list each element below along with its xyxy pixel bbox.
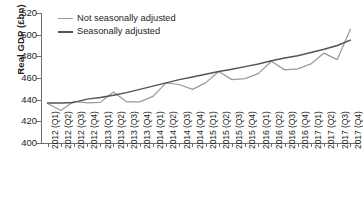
legend-line-icon: [58, 18, 73, 19]
legend-item-seasonally-adjusted: Seasonally adjusted: [58, 26, 176, 37]
series-layer: [0, 0, 363, 216]
legend-label: Not seasonally adjusted: [77, 13, 176, 24]
legend-label: Seasonally adjusted: [77, 26, 160, 37]
series-line-seasonally-adjusted: [48, 40, 351, 103]
gdp-line-chart: Real GDP (£bn) 400420440460480500520 201…: [0, 0, 363, 216]
legend-item-not-seasonally-adjusted: Not seasonally adjusted: [58, 13, 176, 24]
chart-legend: Not seasonally adjusted Seasonally adjus…: [58, 13, 176, 39]
legend-line-icon: [58, 31, 73, 33]
